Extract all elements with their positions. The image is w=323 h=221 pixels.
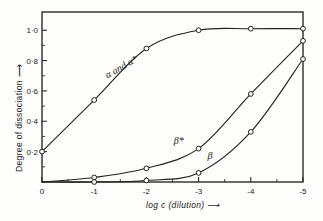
- data-point-marker: [196, 146, 201, 151]
- curve-label: β: [207, 150, 213, 161]
- x-tick-label: -1: [91, 187, 99, 196]
- chart-figure: Degree of dissociation ⟶ log c (dilution…: [0, 0, 323, 221]
- series-line: [42, 28, 303, 151]
- curve-annotations: α and α*β*β: [103, 53, 213, 161]
- data-curves: [42, 28, 303, 182]
- y-tick-label: 0·8: [26, 57, 38, 66]
- x-tick-label: -4: [247, 187, 255, 196]
- data-point-marker: [40, 149, 45, 154]
- data-point-marker: [301, 26, 306, 31]
- data-point-marker: [92, 180, 97, 185]
- axis-ticks: [42, 30, 303, 182]
- data-point-marker: [301, 57, 306, 62]
- curve-label: β*: [173, 135, 184, 146]
- data-point-marker: [92, 98, 97, 103]
- axes-frame: [42, 12, 303, 182]
- series-line: [42, 59, 303, 182]
- y-tick-label: 0·6: [26, 87, 38, 96]
- curve-label: α and α*: [103, 53, 139, 80]
- data-point-marker: [301, 38, 306, 43]
- data-point-marker: [144, 166, 149, 171]
- x-tick-label: 0: [40, 187, 45, 196]
- plot-area: 0-1-2-3-4-50·20·40·60·81·0 α and α*β*β: [0, 0, 323, 221]
- y-tick-label: 1·0: [26, 26, 38, 35]
- series-line: [42, 41, 303, 182]
- y-tick-label: 0·2: [26, 148, 38, 157]
- data-point-marker: [144, 46, 149, 51]
- data-point-marker: [248, 130, 253, 135]
- data-point-marker: [144, 178, 149, 183]
- y-tick-label: 0·4: [26, 117, 38, 126]
- data-point-markers: [40, 26, 306, 184]
- x-tick-label: -5: [299, 187, 307, 196]
- data-point-marker: [196, 28, 201, 33]
- x-tick-label: -3: [195, 187, 203, 196]
- axis-tick-labels: 0-1-2-3-4-50·20·40·60·81·0: [26, 26, 307, 196]
- data-point-marker: [248, 92, 253, 97]
- plot-frame: [42, 12, 303, 182]
- data-point-marker: [248, 26, 253, 31]
- data-point-marker: [196, 170, 201, 175]
- x-tick-label: -2: [143, 187, 151, 196]
